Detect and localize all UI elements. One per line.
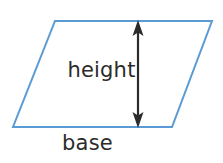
base-label: base [0,133,175,154]
height-label: height [0,60,203,81]
geometry-diagram-parallelogram: height base [0,0,223,163]
